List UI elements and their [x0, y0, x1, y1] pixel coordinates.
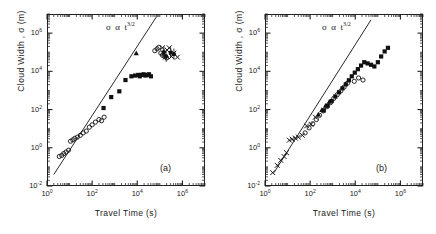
x-tick-label-a-1: 102: [87, 189, 98, 198]
data-point-filled-triangle: [316, 112, 321, 117]
data-point-filled-square: [333, 94, 337, 98]
data-point-filled-square: [337, 90, 341, 94]
data-point-open-circle: [97, 117, 101, 121]
x-tick-label-a-0: 100: [41, 189, 52, 198]
data-point-filled-square: [372, 64, 376, 68]
x-tick-label-b-3: 106: [395, 189, 406, 198]
data-layer: [270, 20, 390, 175]
data-point-filled-square: [101, 106, 105, 110]
data-point-open-circle: [361, 78, 365, 82]
data-point-filled-square: [109, 95, 113, 99]
data-point-filled-square: [123, 78, 127, 82]
x-tick-label-a-3: 106: [177, 189, 188, 198]
reference-line: [274, 20, 371, 173]
data-layer: [54, 17, 180, 175]
data-point-filled-square: [356, 67, 360, 71]
x-tick-label-b-0: 100: [259, 189, 270, 198]
data-point-open-circle: [352, 79, 356, 83]
data-point-filled-square: [129, 74, 133, 78]
data-point-cross-x: [175, 55, 180, 60]
data-point-filled-square: [347, 78, 351, 82]
data-point-open-circle: [356, 76, 360, 80]
data-point-filled-square: [340, 86, 344, 90]
data-point-filled-square: [386, 46, 390, 50]
data-point-filled-square: [149, 74, 153, 78]
panel-a: Cloud Width , σ (m) Travel Time (s) σ α …: [0, 0, 218, 234]
x-tick-label-a-2: 104: [132, 189, 143, 198]
data-point-filled-square: [383, 49, 387, 53]
data-point-open-circle: [87, 125, 91, 129]
x-tick-label-b-2: 104: [350, 189, 361, 198]
data-point-filled-square: [117, 89, 121, 93]
panel-b: Cloud Width , σ (m) Travel Time (s) σ α …: [218, 0, 436, 234]
data-point-filled-square: [376, 60, 380, 64]
data-point-filled-square: [344, 82, 348, 86]
x-tick-label-b-1: 102: [305, 189, 316, 198]
data-point-open-circle: [303, 131, 307, 135]
reference-line: [54, 17, 157, 175]
data-point-open-circle: [102, 115, 106, 119]
figure-container: Cloud Width , σ (m) Travel Time (s) σ α …: [0, 0, 436, 234]
data-point-filled-square: [350, 74, 354, 78]
data-point-filled-square: [379, 54, 383, 58]
